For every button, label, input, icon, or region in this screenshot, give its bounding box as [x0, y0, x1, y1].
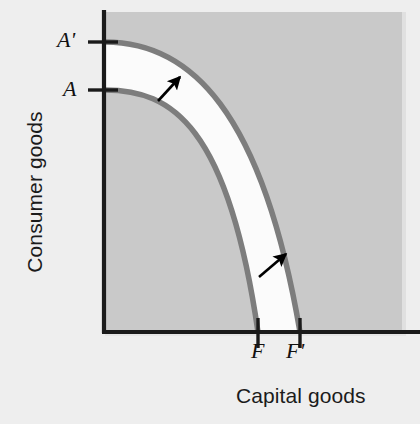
ppf-chart-canvas — [0, 0, 420, 424]
panel-edge-shadow — [402, 12, 406, 336]
x-axis-title: Capital goods — [236, 384, 366, 408]
y-axis-title: Consumer goods — [23, 62, 47, 322]
y-tick-label-A-prime: A' — [57, 27, 75, 53]
x-tick-label-F: F — [251, 338, 264, 364]
ppf-figure: Consumer goods Capital goods A' A F F' — [0, 0, 420, 424]
x-tick-label-F-prime: F' — [286, 338, 304, 364]
y-tick-label-A: A — [63, 76, 76, 102]
